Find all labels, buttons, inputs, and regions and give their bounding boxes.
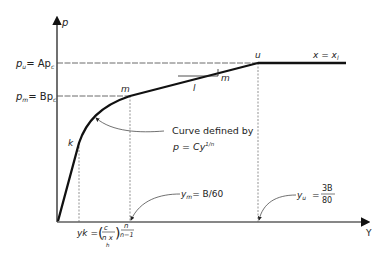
svg-text:yk =: yk = bbox=[76, 228, 98, 238]
pu-label: pu= Apc bbox=[15, 58, 55, 70]
slope-rise-label: m bbox=[221, 73, 230, 83]
point-k-label: k bbox=[68, 138, 74, 148]
svg-text:pu= Apc: pu= Apc bbox=[15, 58, 55, 70]
y-axis-label: p bbox=[61, 17, 68, 28]
condition-label: x = xl bbox=[312, 50, 339, 61]
annotation-formula: p = Cy1/n bbox=[172, 141, 215, 152]
annotation-line1: Curve defined by bbox=[172, 125, 254, 136]
svg-text:yu: yu bbox=[296, 190, 306, 201]
p-y-curve-diagram: p Y m l k m u x = xl pu= Apc pm= Bpc Cur… bbox=[0, 0, 381, 258]
ym-label: ym= B/60 bbox=[180, 189, 224, 200]
point-m-label: m bbox=[121, 84, 130, 94]
yu-label: yu = 3B 80 bbox=[296, 184, 335, 205]
pm-label: pm= Bpc bbox=[15, 91, 57, 103]
point-u-label: u bbox=[255, 50, 261, 60]
svg-text:=: = bbox=[312, 190, 320, 200]
svg-text:c: c bbox=[104, 224, 108, 232]
svg-text:n: n bbox=[124, 222, 128, 230]
svg-text:n−1: n−1 bbox=[120, 231, 134, 239]
svg-text:3B: 3B bbox=[322, 184, 333, 193]
svg-text:x = xl: x = xl bbox=[312, 50, 339, 61]
yk-formula: yk = ( c n x h ) n n−1 bbox=[76, 222, 134, 248]
svg-text:h: h bbox=[106, 242, 110, 248]
x-axis-label: Y bbox=[365, 228, 372, 238]
svg-text:80: 80 bbox=[322, 196, 332, 205]
svg-text:pm= Bpc: pm= Bpc bbox=[15, 91, 57, 103]
svg-text:n x: n x bbox=[102, 234, 114, 242]
slope-run-label: l bbox=[193, 83, 196, 93]
yu-leader bbox=[259, 195, 296, 220]
svg-text:ym= B/60: ym= B/60 bbox=[180, 189, 224, 200]
ym-leader bbox=[131, 194, 180, 220]
svg-text:p = Cy1/n: p = Cy1/n bbox=[172, 141, 215, 152]
